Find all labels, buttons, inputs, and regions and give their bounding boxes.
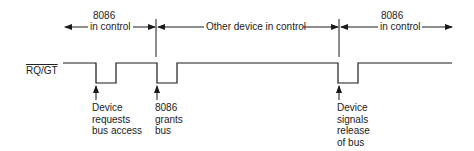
annotation-release-line4: of bus [337,137,370,149]
annotation-grant-line1: 8086 [155,102,183,114]
signal-label: RQ/GT [26,65,58,76]
annotation-request-line3: bus access [92,125,142,137]
annotation-grant-line2: grants [155,114,183,126]
phase1-label-line2: in control [90,21,131,32]
rq-gt-waveform [63,63,452,83]
annotation-grant: 8086 grants bus [155,102,183,137]
phase3-label-line1: 8086 [381,10,403,21]
annotation-release-line3: release [337,125,370,137]
annotation-release-line2: signals [337,114,370,126]
annotation-release: Device signals release of bus [337,102,370,148]
annotation-grant-line3: bus [155,125,183,137]
phase2-label: Other device in control [206,21,306,32]
phase3-label-line2: in control [380,21,421,32]
annotation-request-line1: Device [92,102,142,114]
annotation-request-line2: requests [92,114,142,126]
annotation-release-line1: Device [337,102,370,114]
annotation-request: Device requests bus access [92,102,142,137]
phase1-label-line1: 8086 [93,10,115,21]
